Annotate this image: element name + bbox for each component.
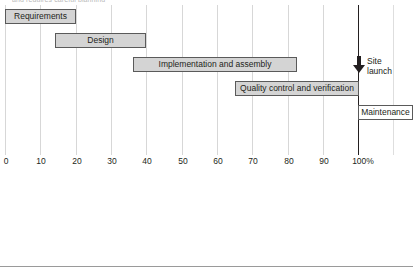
- arrow-head: [353, 65, 365, 73]
- task-bar-label: Design: [87, 36, 113, 45]
- gridline-20: [76, 5, 77, 155]
- axis-tick-60: 60: [213, 156, 222, 166]
- axis-tick-90: 90: [319, 156, 328, 166]
- task-bar-quality-control-and-verification[interactable]: Quality control and verification: [235, 81, 359, 96]
- gridline-50: [182, 5, 183, 155]
- task-bar-label: Implementation and assembly: [159, 60, 272, 69]
- axis-tick-70: 70: [248, 156, 257, 166]
- site-launch-down-arrow-icon: [352, 56, 366, 74]
- task-bar-requirements[interactable]: Requirements: [5, 9, 76, 24]
- site-launch-annotation: Site launch: [367, 56, 392, 76]
- gridline-70: [252, 5, 253, 155]
- axis-tick-100: 100%: [352, 156, 374, 166]
- axis-tick-30: 30: [107, 156, 116, 166]
- task-bar-design[interactable]: Design: [55, 33, 146, 48]
- axis-tick-80: 80: [284, 156, 293, 166]
- gridline-10: [40, 5, 41, 155]
- task-bar-label: Requirements: [14, 12, 67, 21]
- footer-divider: [0, 266, 413, 267]
- gridline-40: [146, 5, 147, 155]
- axis-tick-0: 0: [4, 156, 9, 166]
- axis-tick-20: 20: [72, 156, 81, 166]
- gantt-chart: Requirements Design Implementation and a…: [0, 0, 413, 175]
- axis-tick-10: 10: [36, 156, 45, 166]
- gridline-0: [5, 5, 6, 155]
- task-bar-label: Maintenance: [361, 108, 410, 117]
- gridline-60: [217, 5, 218, 155]
- gridline-80: [288, 5, 289, 155]
- task-bar-label: Quality control and verification: [240, 84, 354, 93]
- task-bar-implementation-and-assembly[interactable]: Implementation and assembly: [133, 57, 297, 72]
- gridline-30: [111, 5, 112, 155]
- gridline-90: [323, 5, 324, 155]
- axis-tick-50: 50: [178, 156, 187, 166]
- axis-tick-40: 40: [142, 156, 151, 166]
- site-launch-line-2: launch: [367, 66, 392, 76]
- site-launch-line-1: Site: [367, 56, 392, 66]
- task-bar-maintenance[interactable]: Maintenance: [358, 105, 413, 120]
- site-launch-line: [358, 5, 359, 155]
- gridline-110: [393, 5, 394, 155]
